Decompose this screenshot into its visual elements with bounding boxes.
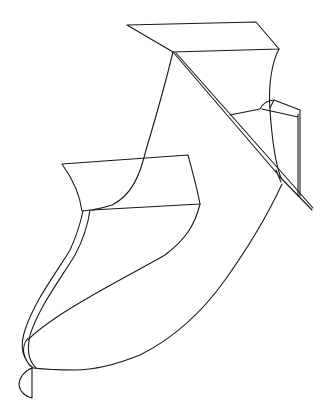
right-edge-curve (269, 49, 281, 178)
middle-band (62, 155, 200, 211)
left-edge-curve (92, 52, 173, 210)
line-drawing (0, 0, 334, 417)
lower-left-double-edge (22, 210, 90, 368)
top-flap (127, 22, 279, 52)
outer-sole-curve (33, 184, 282, 370)
lower-inner-curve (28, 204, 200, 340)
toe-tip (19, 368, 32, 398)
diagonal-strap (173, 52, 313, 210)
